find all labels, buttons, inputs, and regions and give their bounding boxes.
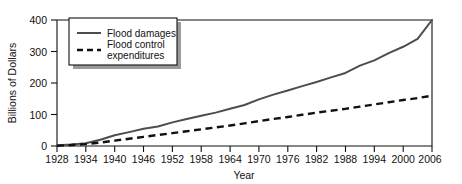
x-axis-ticks [57,146,432,152]
x-tick-label: 1964 [218,153,242,165]
legend-label-flood-control-line1: Flood control [107,39,165,50]
x-tick-label: 1928 [45,153,69,165]
x-tick-label: 1976 [276,153,300,165]
legend-label-flood-damages: Flood damages [107,28,176,39]
y-axis-ticks [51,20,57,146]
x-tick-label: 1982 [305,153,329,165]
y-axis-tick-labels: 400 300 200 100 0 [29,14,47,152]
x-tick-label: 1958 [190,153,214,165]
x-tick-label: 1970 [247,153,271,165]
x-tick-label: 2006 [418,153,442,165]
x-tick-label: 1940 [103,153,127,165]
chart-canvas: 400 300 200 100 0 Billions of Dollars [0,0,462,184]
y-tick-label: 200 [29,77,47,89]
x-tick-label: 1934 [74,153,98,165]
x-axis-title: Year [233,169,255,181]
y-tick-label: 300 [29,46,47,58]
series-line-flood-control-expenditures [57,96,432,146]
x-tick-label: 2000 [392,153,416,165]
y-tick-label: 100 [29,109,47,121]
x-axis-tick-labels: 1928 1934 1940 1946 1952 1958 1964 1970 … [45,153,442,165]
flood-damages-chart-figure: 400 300 200 100 0 Billions of Dollars [0,0,462,184]
y-tick-label: 0 [41,140,47,152]
x-tick-label: 1952 [161,153,185,165]
y-axis-title: Billions of Dollars [6,43,18,124]
legend-label-flood-control-line2: expenditures [107,50,164,61]
x-tick-label: 1988 [334,153,358,165]
legend: Flood damages Flood control expenditures [69,18,181,69]
y-tick-label: 400 [29,14,47,26]
x-tick-label: 1946 [132,153,156,165]
x-tick-label: 1994 [363,153,387,165]
